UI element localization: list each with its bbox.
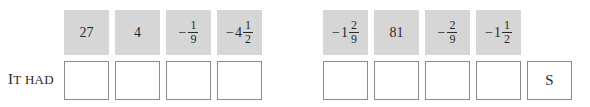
numerator: 2 [447, 19, 457, 33]
answer-box-2[interactable] [115, 61, 160, 100]
minus-sign: − [226, 25, 234, 41]
row-label: IT HAD [8, 71, 54, 88]
fraction: 12 [502, 19, 512, 46]
whole: 81 [390, 25, 404, 41]
answer-box-6[interactable] [374, 61, 419, 100]
fraction: 12 [243, 19, 253, 46]
fraction: 19 [188, 19, 198, 46]
answer-box-9[interactable]: S [527, 61, 572, 100]
answer-box-8[interactable] [476, 61, 521, 100]
value-cell-7: − 29 [425, 10, 470, 55]
minus-sign: − [438, 25, 446, 41]
answer-box-5[interactable] [323, 61, 368, 100]
answer-box-1[interactable] [64, 61, 109, 100]
whole: 1 [494, 25, 501, 41]
whole: 4 [235, 25, 242, 41]
numerator: 1 [188, 19, 198, 33]
value-cell-8: − 1 12 [476, 10, 521, 55]
numerator: 2 [349, 19, 359, 33]
numerator: 1 [243, 19, 253, 33]
whole: 1 [341, 25, 348, 41]
value-cell-2: 4 [115, 10, 160, 55]
value-cell-6: 81 [374, 10, 419, 55]
fraction: 29 [447, 19, 457, 46]
denominator: 9 [349, 33, 359, 46]
fraction: 29 [349, 19, 359, 46]
denominator: 2 [502, 33, 512, 46]
minus-sign: − [485, 25, 493, 41]
value-cell-1: 27 [64, 10, 109, 55]
answer-box-4[interactable] [217, 61, 262, 100]
row-label-word: HAD [25, 72, 54, 87]
denominator: 9 [188, 33, 198, 46]
answer-box-3[interactable] [166, 61, 211, 100]
numerator: 1 [502, 19, 512, 33]
whole: 27 [80, 25, 94, 41]
value-cell-4: − 4 12 [217, 10, 262, 55]
minus-sign: − [332, 25, 340, 41]
whole: 4 [134, 25, 141, 41]
answer-box-7[interactable] [425, 61, 470, 100]
value-cell-3: − 19 [166, 10, 211, 55]
denominator: 9 [447, 33, 457, 46]
denominator: 2 [243, 33, 253, 46]
row-label-t: T [13, 72, 21, 87]
minus-sign: − [179, 25, 187, 41]
value-cell-5: − 1 29 [323, 10, 368, 55]
